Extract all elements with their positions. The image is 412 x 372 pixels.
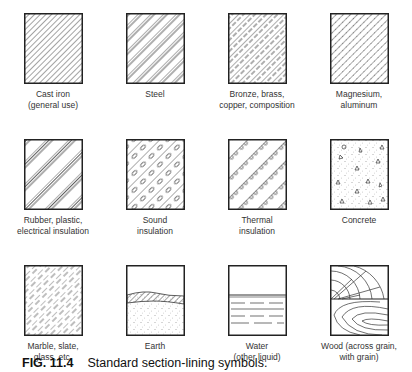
symbol-cast-iron: Cast iron (general use) xyxy=(2,13,104,110)
rubber-hatch-icon xyxy=(24,139,83,210)
symbol-label: Rubber, plastic, electrical insulation xyxy=(2,215,104,236)
cast-iron-hatch-icon xyxy=(24,13,83,84)
symbol-label: Magnesium, aluminum xyxy=(308,89,410,110)
symbol-label: Earth xyxy=(104,341,206,352)
sound-insulation-hatch-icon xyxy=(126,139,185,210)
symbol-steel: Steel xyxy=(104,13,206,100)
water-hatch-icon xyxy=(228,265,287,336)
symbol-label: Bronze, brass, copper, composition xyxy=(206,89,308,110)
symbol-water: Water (other liquid) xyxy=(206,265,308,362)
symbol-wood: Wood (across grain, with grain) xyxy=(308,265,410,362)
symbol-concrete: Concrete xyxy=(308,139,410,226)
thermal-insulation-hatch-icon xyxy=(228,139,287,210)
symbol-label: Steel xyxy=(104,89,206,100)
marble-hatch-icon xyxy=(24,265,83,336)
symbol-sound-insulation: Sound insulation xyxy=(104,139,206,236)
steel-hatch-icon xyxy=(126,13,185,84)
figure-number: FIG. 11.4 xyxy=(22,356,73,370)
earth-hatch-icon xyxy=(126,265,185,336)
concrete-hatch-icon xyxy=(330,139,389,210)
symbol-bronze: Bronze, brass, copper, composition xyxy=(206,13,308,110)
figure-caption-text: Standard section-lining symbols. xyxy=(87,356,267,370)
symbol-rubber: Rubber, plastic, electrical insulation xyxy=(2,139,104,236)
wood-hatch-icon xyxy=(330,265,389,336)
symbol-label: Thermal insulation xyxy=(206,215,308,236)
symbol-thermal-insulation: Thermal insulation xyxy=(206,139,308,236)
symbol-earth: Earth xyxy=(104,265,206,352)
symbol-magnesium: Magnesium, aluminum xyxy=(308,13,410,110)
symbol-label: Concrete xyxy=(308,215,410,226)
bronze-hatch-icon xyxy=(228,13,287,84)
symbol-marble: Marble, slate, glass, etc. xyxy=(2,265,104,362)
symbol-label: Wood (across grain, with grain) xyxy=(308,341,410,362)
figure-caption: FIG. 11.4Standard section-lining symbols… xyxy=(22,356,267,370)
symbol-label: Sound insulation xyxy=(104,215,206,236)
symbol-label: Cast iron (general use) xyxy=(2,89,104,110)
magnesium-hatch-icon xyxy=(330,13,389,84)
